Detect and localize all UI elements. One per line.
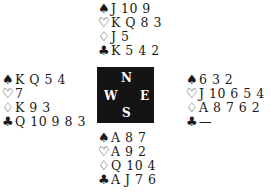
north-diamonds: J 5: [111, 30, 129, 44]
south-hearts-row: ♡A 9 2: [98, 145, 156, 159]
west-diamonds: K 9 3: [15, 101, 51, 115]
south-diamonds: Q 10 4: [111, 159, 156, 173]
north-hand: ♠J 10 9 ♡K Q 8 3 ♢J 5 ♣K 5 4 2: [98, 2, 162, 58]
east-diamonds: A 8 7 6 2: [199, 101, 260, 115]
east-clubs: —: [199, 115, 212, 129]
club-icon: ♣: [98, 173, 111, 187]
heart-icon: ♡: [98, 145, 111, 159]
south-hearts: A 9 2: [111, 145, 146, 159]
north-hearts: K Q 8 3: [111, 16, 162, 30]
south-hand: ♠A 8 7 ♡A 9 2 ♢Q 10 4 ♣A J 7 6: [98, 131, 156, 187]
compass-east: E: [140, 90, 149, 102]
spade-icon: ♠: [98, 2, 111, 16]
club-icon: ♣: [2, 115, 15, 129]
diamond-icon: ♢: [98, 30, 111, 44]
heart-icon: ♡: [98, 16, 111, 30]
heart-icon: ♡: [186, 87, 199, 101]
south-clubs-row: ♣A J 7 6: [98, 173, 156, 187]
spade-icon: ♠: [2, 73, 15, 87]
east-hearts: J 10 6 5 4: [199, 87, 265, 101]
south-spades: A 8 7: [111, 131, 146, 145]
south-spades-row: ♠A 8 7: [98, 131, 156, 145]
east-hand: ♠6 3 2 ♡J 10 6 5 4 ♢A 8 7 6 2 ♣—: [186, 73, 265, 129]
east-spades: 6 3 2: [199, 73, 233, 87]
north-hearts-row: ♡K Q 8 3: [98, 16, 162, 30]
north-clubs-row: ♣K 5 4 2: [98, 44, 162, 58]
heart-icon: ♡: [2, 87, 15, 101]
east-hearts-row: ♡J 10 6 5 4: [186, 87, 265, 101]
spade-icon: ♠: [186, 73, 199, 87]
south-diamonds-row: ♢Q 10 4: [98, 159, 156, 173]
compass-box: N W E S: [97, 67, 154, 123]
south-clubs: A J 7 6: [111, 173, 156, 187]
east-spades-row: ♠6 3 2: [186, 73, 265, 87]
west-spades: K Q 5 4: [15, 73, 66, 87]
west-hearts-row: ♡7: [2, 87, 86, 101]
diamond-icon: ♢: [98, 159, 111, 173]
club-icon: ♣: [98, 44, 111, 58]
compass-south: S: [122, 107, 131, 119]
east-clubs-row: ♣—: [186, 115, 265, 129]
west-hearts: 7: [15, 87, 23, 101]
club-icon: ♣: [186, 115, 199, 129]
west-spades-row: ♠K Q 5 4: [2, 73, 86, 87]
west-clubs-row: ♣Q 10 9 8 3: [2, 115, 86, 129]
west-hand: ♠K Q 5 4 ♡7 ♢K 9 3 ♣Q 10 9 8 3: [2, 73, 86, 129]
compass-north: N: [121, 72, 132, 84]
north-spades: J 10 9: [111, 2, 151, 16]
diamond-icon: ♢: [186, 101, 199, 115]
spade-icon: ♠: [98, 131, 111, 145]
west-clubs: Q 10 9 8 3: [15, 115, 86, 129]
east-diamonds-row: ♢A 8 7 6 2: [186, 101, 265, 115]
north-spades-row: ♠J 10 9: [98, 2, 162, 16]
diamond-icon: ♢: [2, 101, 15, 115]
north-diamonds-row: ♢J 5: [98, 30, 162, 44]
north-clubs: K 5 4 2: [111, 44, 160, 58]
compass-west: W: [104, 90, 117, 102]
west-diamonds-row: ♢K 9 3: [2, 101, 86, 115]
